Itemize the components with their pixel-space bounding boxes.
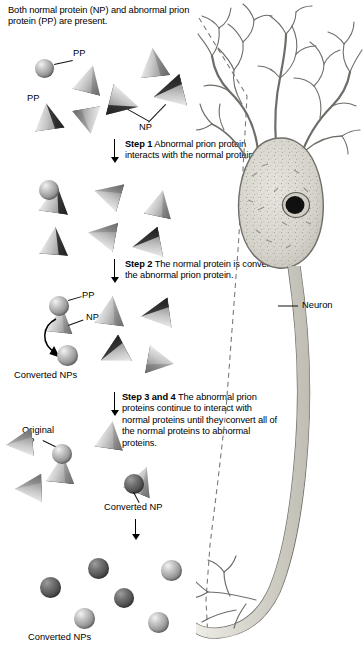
step-2-arrow xyxy=(110,259,119,284)
protein-cone-np xyxy=(91,177,125,212)
protein-cone-pp xyxy=(139,297,172,332)
leader-line-pp1 xyxy=(54,60,73,65)
protein-sphere-converted xyxy=(148,612,169,633)
protein-cone-np-labeled xyxy=(149,74,187,114)
protein-cone-pp xyxy=(39,226,70,256)
protein-sphere-original-pp xyxy=(52,444,72,464)
protein-sphere-converted xyxy=(74,608,95,629)
step-1-arrow xyxy=(110,139,119,164)
neuron-illustration xyxy=(196,0,363,657)
protein-cone-np xyxy=(72,106,105,137)
protein-cone-np xyxy=(143,187,176,219)
dendrite-branches xyxy=(196,4,362,158)
protein-sphere-converted xyxy=(161,560,182,581)
axon xyxy=(196,266,310,638)
label-pp-3: PP xyxy=(82,290,94,301)
label-neuron: Neuron xyxy=(302,300,333,311)
protein-cone-np xyxy=(145,345,177,378)
step-34-label: Step 3 and 4 xyxy=(122,392,176,402)
protein-cone-np xyxy=(5,428,35,460)
protein-sphere-pp xyxy=(39,180,59,200)
step-1-label: Step 1 xyxy=(125,139,152,149)
soma-cell-body xyxy=(239,138,324,268)
label-converted-np: Converted NP xyxy=(104,502,162,513)
label-np-1: NP xyxy=(139,122,152,133)
protein-sphere-converted xyxy=(88,558,109,579)
label-converted-nps-bottom: Converted NPs xyxy=(28,632,91,643)
protein-sphere-converted xyxy=(57,345,78,366)
step-34-arrow xyxy=(110,392,119,417)
intro-caption: Both normal protein (NP) and abnormal pr… xyxy=(8,5,198,28)
nucleus xyxy=(283,193,310,218)
protein-cone-pp xyxy=(94,334,133,374)
protein-cone-np xyxy=(15,474,43,504)
protein-cone-pp xyxy=(129,227,163,263)
protein-sphere-converted xyxy=(114,588,134,608)
figure-canvas: Both normal protein (NP) and abnormal pr… xyxy=(0,0,363,657)
protein-sphere-pp xyxy=(35,59,54,78)
label-converted-nps-mid: Converted NPs xyxy=(14,370,77,381)
protein-cone-np xyxy=(72,62,107,96)
protein-cone-np xyxy=(94,419,127,451)
protein-cone-np-labeled xyxy=(106,84,143,122)
protein-sphere-converted xyxy=(40,577,61,598)
protein-cone-np xyxy=(138,47,171,79)
protein-sphere-pp-original xyxy=(49,296,69,316)
leader-line-pp3 xyxy=(68,296,82,301)
protein-sphere-converted-np xyxy=(124,474,144,494)
protein-cone-np xyxy=(86,218,119,252)
protein-cone-np xyxy=(94,294,127,326)
label-pp-1: PP xyxy=(73,48,85,59)
final-arrow xyxy=(131,519,140,542)
step-2-label: Step 2 xyxy=(125,259,152,269)
protein-cone-pp-bound xyxy=(31,101,64,132)
label-pp-2: PP xyxy=(27,93,39,104)
